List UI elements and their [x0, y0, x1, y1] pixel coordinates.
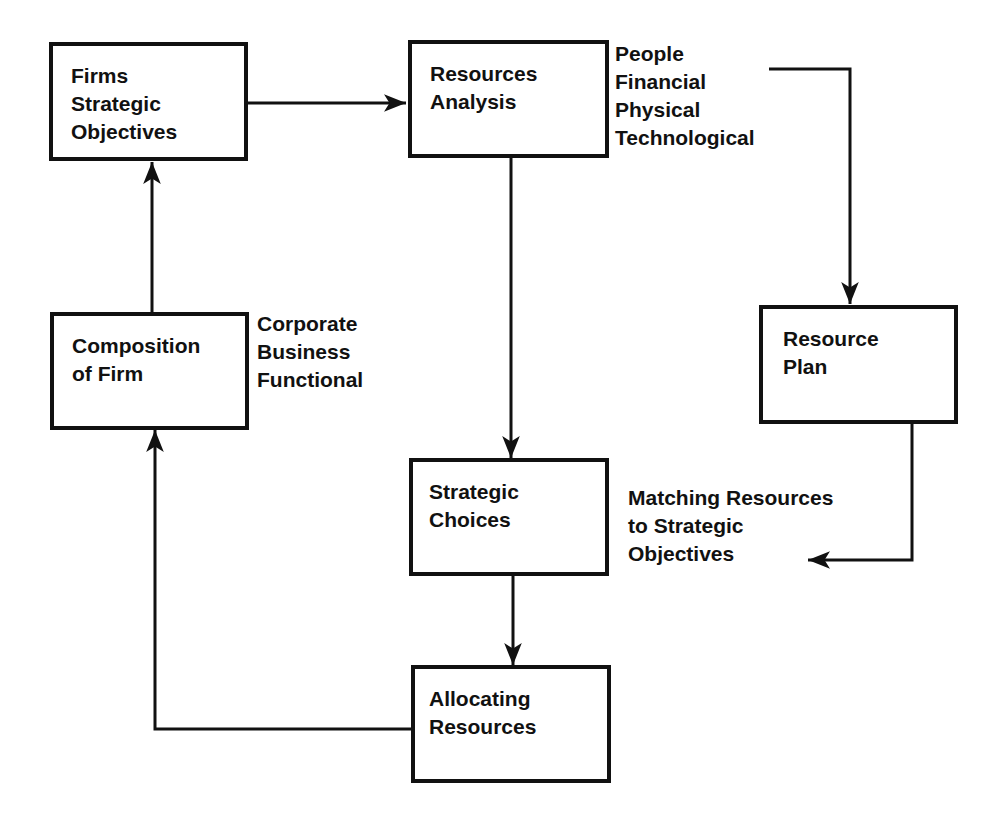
annotation-line: Technological	[615, 124, 755, 152]
annotation-line: to Strategic	[628, 512, 833, 540]
label-line: Allocating	[429, 685, 536, 713]
annotation-matching: Matching Resources to Strategic Objectiv…	[628, 484, 833, 568]
label-line: Composition	[72, 332, 200, 360]
node-composition-of-firm: Compositionof Firm	[50, 312, 249, 430]
node-label: Compositionof Firm	[72, 332, 200, 388]
label-line: Resources	[429, 713, 536, 741]
annotation-line: Corporate	[257, 310, 363, 338]
node-label: FirmsStrategicObjectives	[71, 62, 177, 146]
node-firms-strategic-objectives: FirmsStrategicObjectives	[49, 42, 248, 161]
annotation-line: Business	[257, 338, 363, 366]
node-label: ResourcesAnalysis	[430, 60, 537, 116]
annotation-line: Physical	[615, 96, 755, 124]
label-line: Plan	[783, 353, 879, 381]
node-allocating-resources: AllocatingResources	[411, 665, 611, 783]
label-line: of Firm	[72, 360, 200, 388]
edge-allocating-to-composition	[155, 430, 411, 729]
label-line: Strategic	[429, 478, 519, 506]
node-label: AllocatingResources	[429, 685, 536, 741]
node-label: ResourcePlan	[783, 325, 879, 381]
label-line: Strategic	[71, 90, 177, 118]
annotation-line: Financial	[615, 68, 755, 96]
edge-resourcetypes-to-plan	[769, 69, 850, 304]
annotation-resource-types: People Financial Physical Technological	[615, 40, 755, 152]
label-line: Resource	[783, 325, 879, 353]
annotation-line: People	[615, 40, 755, 68]
label-line: Firms	[71, 62, 177, 90]
annotation-composition-levels: Corporate Business Functional	[257, 310, 363, 394]
label-line: Resources	[430, 60, 537, 88]
label-line: Analysis	[430, 88, 537, 116]
node-resources-analysis: ResourcesAnalysis	[408, 40, 609, 158]
node-strategic-choices: StrategicChoices	[409, 458, 609, 576]
annotation-line: Matching Resources	[628, 484, 833, 512]
node-resource-plan: ResourcePlan	[759, 305, 958, 424]
annotation-line: Objectives	[628, 540, 833, 568]
label-line: Objectives	[71, 118, 177, 146]
label-line: Choices	[429, 506, 519, 534]
node-label: StrategicChoices	[429, 478, 519, 534]
annotation-line: Functional	[257, 366, 363, 394]
